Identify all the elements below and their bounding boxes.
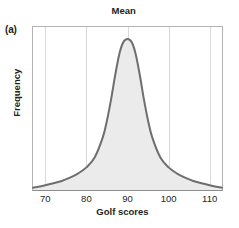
x-tick-label-70: 70	[40, 193, 51, 204]
figure-panel-a: (a) Mean Frequency Golf scores 708090100…	[0, 0, 239, 228]
x-tick-label-90: 90	[122, 193, 133, 204]
x-tick-labels: 708090100110	[40, 193, 217, 204]
x-tick-label-80: 80	[81, 193, 92, 204]
x-tick-label-100: 100	[161, 193, 177, 204]
chart-plot-area: 708090100110	[0, 0, 239, 228]
x-tick-label-110: 110	[202, 193, 217, 204]
